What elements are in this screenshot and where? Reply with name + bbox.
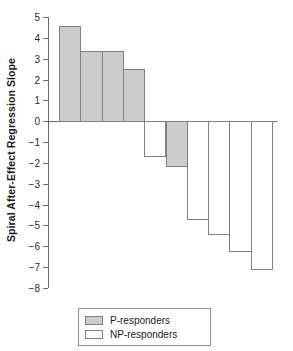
y-axis-tick-label: 1 xyxy=(34,95,40,106)
y-axis-tick-label: −7 xyxy=(29,262,40,273)
y-axis-tick-mark xyxy=(43,17,48,18)
y-axis-tick-mark xyxy=(43,142,48,143)
bar xyxy=(166,121,188,167)
y-axis-tick-mark xyxy=(43,80,48,81)
plot-area: 543210−1−2−3−4−5−6−7−8 xyxy=(48,17,277,288)
y-axis-title-text: Spiral After-Effect Regression Slope xyxy=(5,58,17,242)
bar xyxy=(229,121,251,251)
y-axis-title: Spiral After-Effect Regression Slope xyxy=(0,0,22,300)
legend-row: NP-responders xyxy=(85,327,204,341)
y-axis-tick-mark xyxy=(43,38,48,39)
y-axis-tick-label: 5 xyxy=(34,12,40,23)
y-axis-tick-label: −3 xyxy=(29,178,40,189)
bar xyxy=(144,121,166,156)
bar xyxy=(187,121,209,220)
bar xyxy=(59,26,81,122)
y-axis-tick-label: −4 xyxy=(29,199,40,210)
y-axis-tick-label: 0 xyxy=(34,116,40,127)
y-axis-tick-mark xyxy=(43,225,48,226)
y-axis-tick-mark xyxy=(43,205,48,206)
y-axis-tick-label: −6 xyxy=(29,241,40,252)
chart-legend: P-respondersNP-responders xyxy=(78,308,211,346)
bar xyxy=(123,69,145,122)
legend-swatch xyxy=(85,316,103,325)
y-axis-tick-mark xyxy=(43,121,48,122)
y-axis-spine xyxy=(48,17,49,288)
bar xyxy=(208,121,230,235)
y-axis-tick-label: 3 xyxy=(34,53,40,64)
y-axis-tick-mark xyxy=(43,184,48,185)
bar xyxy=(102,51,124,122)
y-axis-tick-mark xyxy=(43,246,48,247)
legend-swatch xyxy=(85,330,103,339)
y-axis-tick-label: −1 xyxy=(29,137,40,148)
y-axis-tick-mark xyxy=(43,59,48,60)
y-axis-tick-label: −2 xyxy=(29,157,40,168)
chart-figure: Spiral After-Effect Regression Slope 543… xyxy=(0,0,293,351)
legend-label: NP-responders xyxy=(110,329,177,340)
y-axis-tick-mark xyxy=(43,267,48,268)
legend-label: P-responders xyxy=(110,315,170,326)
bar xyxy=(80,51,102,122)
y-axis-tick-label: −8 xyxy=(29,283,40,294)
legend-row: P-responders xyxy=(85,313,204,327)
y-axis-tick-mark xyxy=(43,288,48,289)
y-axis-tick-mark xyxy=(43,100,48,101)
bar xyxy=(251,121,273,270)
y-axis-tick-label: 2 xyxy=(34,74,40,85)
y-axis-tick-mark xyxy=(43,163,48,164)
y-axis-tick-label: 4 xyxy=(34,32,40,43)
y-axis-tick-label: −5 xyxy=(29,220,40,231)
